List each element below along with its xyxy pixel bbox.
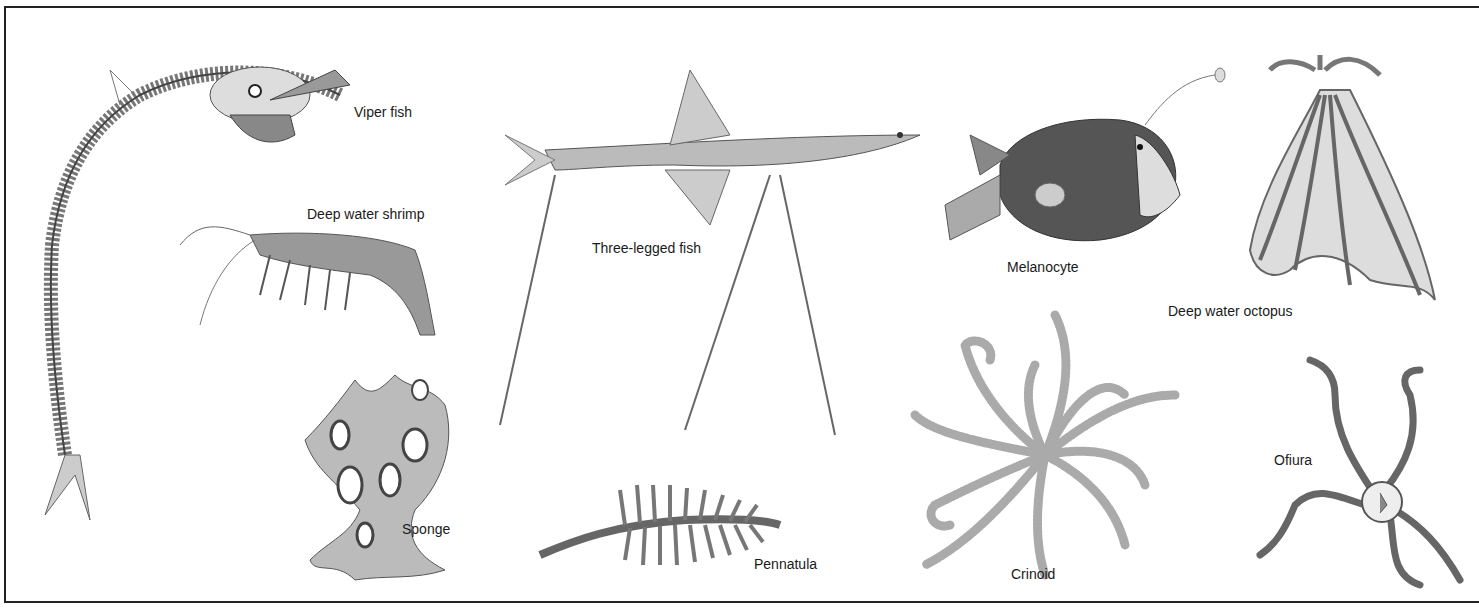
crinoid-illustration [895, 305, 1195, 585]
label-deep-water-shrimp: Deep water shrimp [307, 206, 425, 222]
label-viper-fish: Viper fish [354, 104, 412, 120]
label-ofiura: Ofiura [1274, 452, 1312, 468]
label-melanocyte: Melanocyte [1007, 259, 1079, 275]
deep-water-shrimp-illustration [180, 215, 440, 345]
three-legged-fish-illustration [495, 65, 935, 440]
label-pennatula: Pennatula [754, 556, 817, 572]
deep-water-octopus-illustration [1240, 50, 1450, 320]
label-crinoid: Crinoid [1011, 566, 1055, 582]
sponge-illustration [295, 360, 465, 590]
pennatula-illustration [535, 480, 785, 570]
melanocyte-illustration [940, 65, 1200, 255]
label-sponge: Sponge [402, 521, 450, 537]
label-three-legged-fish: Three-legged fish [592, 240, 701, 256]
ofiura-illustration [1255, 355, 1470, 595]
